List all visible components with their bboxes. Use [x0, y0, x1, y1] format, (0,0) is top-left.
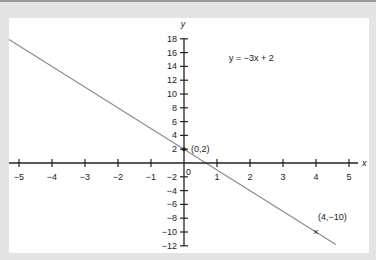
y-tick-label: −6: [167, 199, 177, 209]
y-tick-label: 12: [167, 75, 177, 85]
x-tick-label: −2: [113, 172, 123, 182]
point-marker-x: ×: [313, 227, 318, 237]
y-tick-label: 6: [172, 117, 177, 127]
y-tick-label: −12: [162, 241, 177, 251]
y-tick-label: −2: [167, 172, 177, 182]
point-label: (4,−10): [318, 212, 347, 222]
x-tick-label: 0: [186, 167, 191, 177]
y-tick-label: −10: [162, 227, 177, 237]
x-axis-label: x: [361, 158, 367, 168]
x-tick-label: −4: [47, 172, 57, 182]
x-tick-label: 5: [346, 172, 351, 182]
y-tick-label: 4: [172, 130, 177, 140]
x-tick-label: 4: [313, 172, 318, 182]
y-tick-label: 8: [172, 103, 177, 113]
x-tick-label: −1: [146, 172, 156, 182]
x-tick-label: −5: [14, 172, 24, 182]
axes: [9, 39, 358, 246]
chart: −5−4−3−2−101234518161412108642−2−4−6−8−1…: [0, 0, 376, 260]
y-tick-label: 2: [172, 144, 177, 154]
y-tick-label: −8: [167, 213, 177, 223]
point-label: (0,2): [191, 144, 210, 154]
x-tick-label: 2: [247, 172, 252, 182]
x-tick-label: 3: [280, 172, 285, 182]
point-marker: [182, 147, 186, 151]
y-tick-label: 10: [167, 89, 177, 99]
y-tick-label: 14: [167, 61, 177, 71]
equation-label: y = −3x + 2: [229, 53, 274, 63]
labels: −5−4−3−2−101234518161412108642−2−4−6−8−1…: [14, 19, 367, 251]
x-tick-label: 1: [214, 172, 219, 182]
y-tick-label: 18: [167, 34, 177, 44]
y-tick-label: −4: [167, 186, 177, 196]
x-tick-label: −3: [80, 172, 90, 182]
y-tick-label: 16: [167, 48, 177, 58]
y-axis-label: y: [180, 19, 186, 29]
